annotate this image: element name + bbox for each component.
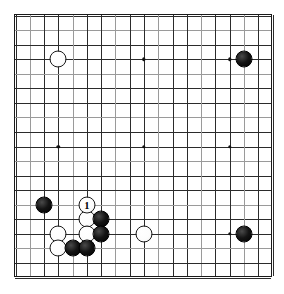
- grid-line-horizontal: [15, 190, 271, 191]
- grid-line-horizontal: [15, 205, 271, 206]
- star-point: [57, 145, 60, 148]
- grid-line-horizontal: [15, 161, 271, 162]
- grid-line-horizontal: [15, 278, 271, 279]
- grid-line-horizontal: [15, 45, 271, 46]
- go-board[interactable]: 1: [14, 14, 272, 277]
- grid-line-horizontal: [15, 219, 271, 220]
- stone-black[interactable]: [78, 240, 95, 257]
- stone-white[interactable]: [50, 51, 67, 68]
- go-diagram: 1: [0, 0, 284, 294]
- grid-line-vertical: [44, 15, 45, 276]
- star-point: [228, 57, 231, 60]
- grid-line-vertical: [115, 15, 116, 276]
- star-point: [142, 145, 145, 148]
- grid-line-vertical: [30, 15, 31, 276]
- grid-line-vertical: [215, 15, 216, 276]
- grid-line-vertical: [16, 15, 17, 276]
- grid-line-horizontal: [15, 176, 271, 177]
- grid-line-horizontal: [15, 103, 271, 104]
- grid-line-vertical: [258, 15, 259, 276]
- star-point: [142, 57, 145, 60]
- grid-line-horizontal: [15, 117, 271, 118]
- grid-line-vertical: [73, 15, 74, 276]
- stone-white[interactable]: [136, 225, 153, 242]
- grid-line-vertical: [173, 15, 174, 276]
- star-point: [228, 145, 231, 148]
- grid-line-horizontal: [15, 74, 271, 75]
- grid-line-horizontal: [15, 30, 271, 31]
- grid-line-vertical: [187, 15, 188, 276]
- grid-line-vertical: [273, 15, 274, 276]
- grid-line-horizontal: [15, 16, 271, 17]
- grid-line-vertical: [201, 15, 202, 276]
- grid-line-vertical: [158, 15, 159, 276]
- grid-line-horizontal: [15, 263, 271, 264]
- stone-black[interactable]: [235, 51, 252, 68]
- stone-black[interactable]: [93, 225, 110, 242]
- grid-line-horizontal: [15, 88, 271, 89]
- move-number-label: 1: [79, 197, 94, 212]
- stone-black[interactable]: [235, 225, 252, 242]
- stone-black[interactable]: [36, 196, 53, 213]
- star-point: [228, 232, 231, 235]
- grid-line-vertical: [130, 15, 131, 276]
- grid-line-horizontal: [15, 132, 271, 133]
- stone-white-numbered[interactable]: 1: [78, 196, 95, 213]
